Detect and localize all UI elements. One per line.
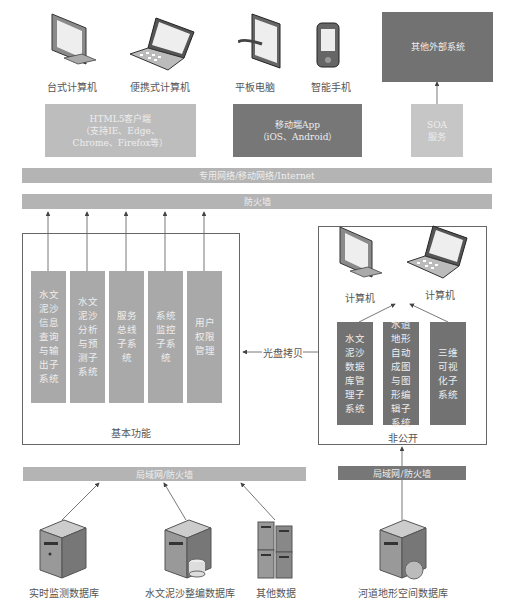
- module-label: 三维可视化子系统: [435, 346, 461, 402]
- other-data-label: 其他数据: [246, 585, 306, 600]
- mobile-app-box: 移动端App （iOS、Android）: [233, 104, 362, 157]
- laptop-icon: [128, 14, 198, 72]
- basic-functions-title: 基本功能: [22, 425, 240, 440]
- lan-firewall-bar-left: 局域网/防火墙: [23, 467, 306, 481]
- tablet-icon: [238, 12, 284, 70]
- soa-line2: 服务: [428, 131, 446, 143]
- smartphone-icon: [314, 20, 344, 70]
- server-icon: [38, 518, 88, 580]
- html5-line2: （支持IE、Edge、: [81, 125, 160, 137]
- module-label: 水道地形自动成图与图形编辑子系统: [388, 318, 414, 430]
- terrain-db-label: 河道地形空间数据库: [345, 585, 460, 600]
- mobile-line2: （iOS、Android）: [258, 131, 338, 143]
- laptop-label: 便携式计算机: [120, 79, 200, 94]
- external-systems-label: 其他外部系统: [411, 41, 465, 53]
- internet-bar-label: 专用网络/移动网络/Internet: [199, 169, 314, 182]
- internet-bar: 专用网络/移动网络/Internet: [22, 168, 492, 183]
- soa-line1: SOA: [427, 119, 447, 131]
- server-database-icon: [163, 518, 213, 580]
- computer2-label: 计算机: [415, 287, 465, 302]
- external-systems-box: 其他外部系统: [382, 12, 493, 82]
- compiled-db-label: 水文泥沙整编数据库: [132, 585, 247, 600]
- module-label: 水文泥沙数据库管理子系统: [342, 332, 368, 416]
- non-public-title: 非公开: [318, 430, 487, 445]
- laptop-icon: [405, 224, 471, 282]
- module-system-monitor: 系统监控子系统: [148, 271, 183, 403]
- firewall-bar: 防火墙: [22, 194, 492, 209]
- module-analysis-forecast: 水文泥沙分析与预测子系统: [70, 271, 105, 403]
- module-query-output: 水文泥沙信息查询与输出子系统: [31, 271, 66, 403]
- html5-client-box: HTML5客户端 （支持IE、Edge、 Chrome、Firefox等）: [45, 104, 196, 157]
- module-hydro-db-management: 水文泥沙数据库管理子系统: [337, 322, 373, 425]
- desktop-label: 台式计算机: [32, 79, 112, 94]
- soa-service-box: SOA 服务: [411, 104, 463, 157]
- tablet-label: 平板电脑: [220, 79, 290, 94]
- desktop-monitor-icon: [336, 225, 384, 285]
- firewall-bar-label: 防火墙: [244, 195, 271, 208]
- computer1-label: 计算机: [335, 290, 385, 305]
- lan-left-label: 局域网/防火墙: [136, 468, 193, 481]
- module-label: 水文泥沙分析与预测子系统: [75, 295, 101, 379]
- module-label: 水文泥沙信息查询与输出子系统: [36, 288, 62, 386]
- mobile-line1: 移动端App: [275, 119, 320, 131]
- realtime-db-label: 实时监测数据库: [14, 585, 114, 600]
- lan-firewall-bar-right: 局域网/防火墙: [338, 466, 466, 480]
- module-3d-visualization: 三维可视化子系统: [430, 322, 466, 425]
- module-label: 服务总线子系统: [114, 309, 140, 365]
- html5-line3: Chrome、Firefox等）: [73, 137, 169, 149]
- server-cluster-icon: [256, 516, 296, 582]
- disc-copy-label: 光盘拷贝: [262, 345, 304, 360]
- lan-right-label: 局域网/防火墙: [373, 467, 430, 480]
- module-label: 系统监控子系统: [153, 309, 179, 365]
- module-user-permissions: 用户权限管理: [187, 271, 222, 403]
- module-terrain-mapping: 水道地形自动成图与图形编辑子系统: [383, 322, 419, 425]
- module-label: 用户权限管理: [192, 316, 218, 358]
- module-service-bus: 服务总线子系统: [109, 271, 144, 403]
- phone-label: 智能手机: [296, 79, 366, 94]
- html5-line1: HTML5客户端: [90, 113, 152, 125]
- server-globe-icon: [378, 518, 430, 582]
- desktop-monitor-icon: [48, 10, 100, 68]
